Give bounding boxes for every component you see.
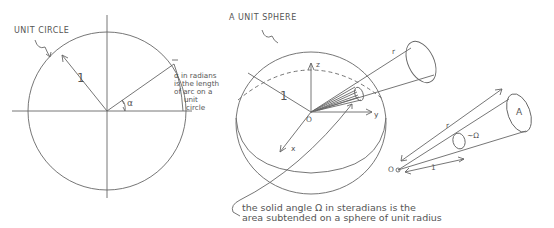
unit-circle-radius-label: 1 [77,72,85,84]
sphere-title-pointer [262,30,278,43]
caption: the solid angle Ω in steradians is the a… [242,203,442,223]
outer-cone [311,48,434,112]
z-axis-label: z [316,61,320,69]
unit-sphere-radius-label: 1 [280,90,288,102]
x-axis-label: x [291,145,295,153]
note-line: circle [174,104,219,112]
unit-circle-angle-label: α [127,99,133,108]
cone-lower [398,131,526,170]
cone-origin-label: O [388,166,394,174]
angle-ray [107,64,174,111]
area-label: A [516,108,522,117]
outer-cone-cap [400,37,442,88]
diagram-canvas [0,0,554,228]
cone-r-label: r [446,122,449,130]
cone-upper [398,99,509,170]
unit-sphere-title: A UNIT SPHERE [229,14,297,22]
inner-cone-cap [353,86,365,102]
caption-line: area subtended on a sphere of unit radiu… [242,213,442,223]
unit-circle-note: α in radians is the length of arc on a u… [174,72,219,112]
solid-angle-label: ~Ω [467,132,479,140]
unit-circle-figure [12,15,192,198]
sphere-origin-label: O [306,116,312,124]
title-pointer [35,40,50,57]
cone-unit-label: 1 [431,164,436,172]
unit-sphere-figure [232,30,442,216]
caption-pointer [232,104,352,216]
equator-front [236,118,386,173]
sphere-cone-r-label: r [392,48,395,56]
r-dimension [401,89,502,161]
unit-circle-title: UNIT CIRCLE [14,27,69,35]
y-axis-label: y [374,111,378,119]
